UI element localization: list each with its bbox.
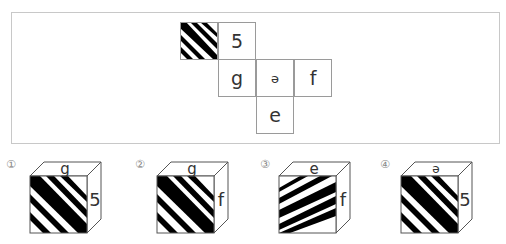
cube-icon: g f <box>135 160 245 240</box>
option-4[interactable]: ④ ə 5 <box>380 160 490 240</box>
striped-face <box>180 22 218 60</box>
svg-text:g: g <box>60 160 70 178</box>
cube-icon: e f <box>260 160 370 240</box>
cube-icon: ə 5 <box>380 160 490 240</box>
net-cell-g: g <box>218 59 256 97</box>
net-cell-schwa: ə <box>256 59 294 97</box>
svg-text:5: 5 <box>459 189 470 210</box>
svg-text:e: e <box>309 160 318 178</box>
svg-text:5: 5 <box>89 189 100 210</box>
svg-text:f: f <box>340 189 347 210</box>
net-cell-5: 5 <box>218 22 256 60</box>
net-cell-e: e <box>256 96 294 134</box>
net-cell-f: f <box>294 59 332 97</box>
option-3[interactable]: ③ e f <box>260 160 370 240</box>
svg-text:ə: ə <box>432 162 439 176</box>
option-1[interactable]: ① g 5 <box>6 160 116 240</box>
cube-icon: g 5 <box>6 160 116 240</box>
option-2[interactable]: ② g f <box>135 160 245 240</box>
svg-text:f: f <box>218 189 225 210</box>
svg-text:g: g <box>187 160 197 178</box>
